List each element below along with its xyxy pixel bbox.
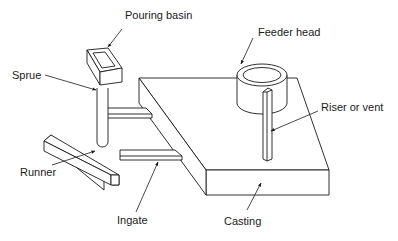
casting-block: [139, 78, 329, 195]
ingate-leader: [136, 162, 158, 212]
ingate-lower: [120, 150, 182, 160]
pouring-basin-leader: [108, 29, 122, 47]
sprue-leader: [45, 75, 96, 90]
label-pouring-basin: Pouring basin: [125, 9, 192, 21]
pouring-basin: [87, 48, 122, 85]
sprue: [97, 88, 108, 147]
label-runner: Runner: [20, 166, 56, 178]
feeder-head: [237, 64, 287, 114]
label-riser-or-vent: Riser or vent: [321, 101, 383, 113]
label-casting: Casting: [224, 215, 261, 227]
diagram-drawing: [0, 0, 398, 241]
ingate-upper: [107, 108, 152, 118]
riser-vent: [263, 88, 272, 161]
label-feeder-head: Feeder head: [258, 26, 320, 38]
label-ingate: Ingate: [117, 214, 148, 226]
gating-system-diagram: Pouring basin Sprue Feeder head Riser or…: [0, 0, 398, 241]
label-sprue: Sprue: [12, 69, 41, 81]
feeder-head-leader: [241, 38, 253, 64]
